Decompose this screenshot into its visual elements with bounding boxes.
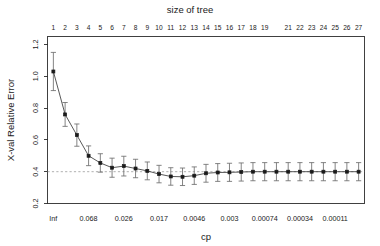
data-point bbox=[216, 171, 219, 174]
top-tick-label: 13 bbox=[191, 24, 199, 31]
data-point bbox=[205, 172, 208, 175]
data-point bbox=[275, 170, 278, 173]
data-point bbox=[240, 171, 243, 174]
top-tick-label: 18 bbox=[249, 24, 257, 31]
top-tick-label: 17 bbox=[238, 24, 246, 31]
bottom-tick-label: 0.00074 bbox=[252, 214, 278, 223]
data-point bbox=[310, 170, 313, 173]
top-tick-label: 3 bbox=[75, 24, 79, 31]
top-tick-label: 22 bbox=[296, 24, 304, 31]
top-tick-label: 27 bbox=[355, 24, 363, 31]
data-point bbox=[158, 173, 161, 176]
top-tick-label: 25 bbox=[331, 24, 339, 31]
top-tick-label: 7 bbox=[122, 24, 126, 31]
data-point bbox=[345, 170, 348, 173]
bottom-tick-label: 0.017 bbox=[150, 214, 168, 223]
bottom-tick-label: 0.0046 bbox=[183, 214, 205, 223]
top-tick-label: 23 bbox=[308, 24, 316, 31]
bottom-tick-label: 0.00034 bbox=[287, 214, 313, 223]
data-point bbox=[52, 70, 55, 73]
top-tick-label: 2 bbox=[63, 24, 67, 31]
top-tick-label: 19 bbox=[261, 24, 269, 31]
bottom-tick-label: Inf bbox=[49, 214, 57, 223]
bottom-tick-label: 0.026 bbox=[115, 214, 133, 223]
y-tick-label: 0.2 bbox=[31, 199, 40, 209]
bottom-axis-tick-labels: Inf0.0680.0260.0170.00460.0030.000740.00… bbox=[49, 214, 348, 223]
y-tick-label: 1.0 bbox=[31, 71, 40, 81]
top-tick-label: 9 bbox=[145, 24, 149, 31]
data-point bbox=[169, 175, 172, 178]
top-tick-label: 1 bbox=[52, 24, 56, 31]
data-point bbox=[122, 165, 125, 168]
data-point bbox=[322, 170, 325, 173]
cp-plot-figure: size of tree 123456789101112131415161718… bbox=[0, 0, 380, 246]
y-tick-label: 0.8 bbox=[31, 103, 40, 113]
top-tick-label: 4 bbox=[87, 24, 91, 31]
chart-title: size of tree bbox=[167, 4, 213, 15]
top-tick-label: 21 bbox=[285, 24, 293, 31]
top-tick-label: 15 bbox=[214, 24, 222, 31]
data-point bbox=[146, 169, 149, 172]
data-point bbox=[111, 166, 114, 169]
plot-canvas: size of tree 123456789101112131415161718… bbox=[0, 0, 380, 246]
top-tick-label: 24 bbox=[320, 24, 328, 31]
y-tick-label: 0.6 bbox=[31, 135, 40, 145]
top-tick-label: 26 bbox=[343, 24, 351, 31]
top-tick-label: 5 bbox=[98, 24, 102, 31]
top-tick-label: 16 bbox=[226, 24, 234, 31]
data-point bbox=[64, 113, 67, 116]
data-point bbox=[193, 174, 196, 177]
x-axis-label: cp bbox=[201, 231, 211, 242]
top-tick-label: 8 bbox=[134, 24, 138, 31]
data-point bbox=[134, 167, 137, 170]
bottom-tick-label: 0.003 bbox=[220, 214, 238, 223]
y-tick-label: 1.2 bbox=[31, 39, 40, 49]
top-tick-label: 12 bbox=[179, 24, 187, 31]
data-point bbox=[263, 170, 266, 173]
data-point bbox=[181, 175, 184, 178]
data-point bbox=[228, 171, 231, 174]
data-point bbox=[99, 161, 102, 164]
data-point bbox=[287, 170, 290, 173]
data-point bbox=[87, 154, 90, 157]
data-point bbox=[357, 170, 360, 173]
bottom-tick-label: 0.00011 bbox=[322, 214, 347, 223]
data-point bbox=[75, 134, 78, 137]
y-axis-label: X-val Relative Error bbox=[5, 79, 16, 161]
top-tick-label: 11 bbox=[167, 24, 174, 31]
data-point bbox=[251, 170, 254, 173]
top-tick-label: 10 bbox=[155, 24, 163, 31]
y-tick-label: 0.4 bbox=[31, 167, 40, 177]
top-tick-label: 14 bbox=[202, 24, 210, 31]
data-point bbox=[334, 170, 337, 173]
top-tick-label: 6 bbox=[110, 24, 114, 31]
bottom-tick-label: 0.068 bbox=[80, 214, 98, 223]
data-point bbox=[298, 170, 301, 173]
